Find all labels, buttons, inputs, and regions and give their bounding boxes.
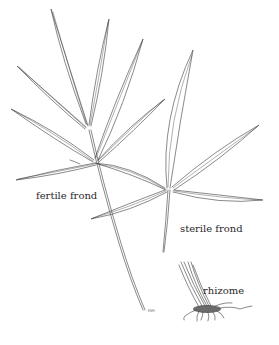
fertile-frond-label: fertile frond	[36, 191, 97, 201]
sterile-frond	[91, 50, 263, 252]
botanical-illustration: fertile frond sterile frond rhizome EMH	[0, 0, 279, 345]
artist-signature: EMH	[148, 309, 155, 313]
rhizome-label: rhizome	[203, 286, 244, 296]
sterile-frond-label: sterile frond	[180, 224, 243, 234]
fertile-frond	[11, 9, 165, 310]
